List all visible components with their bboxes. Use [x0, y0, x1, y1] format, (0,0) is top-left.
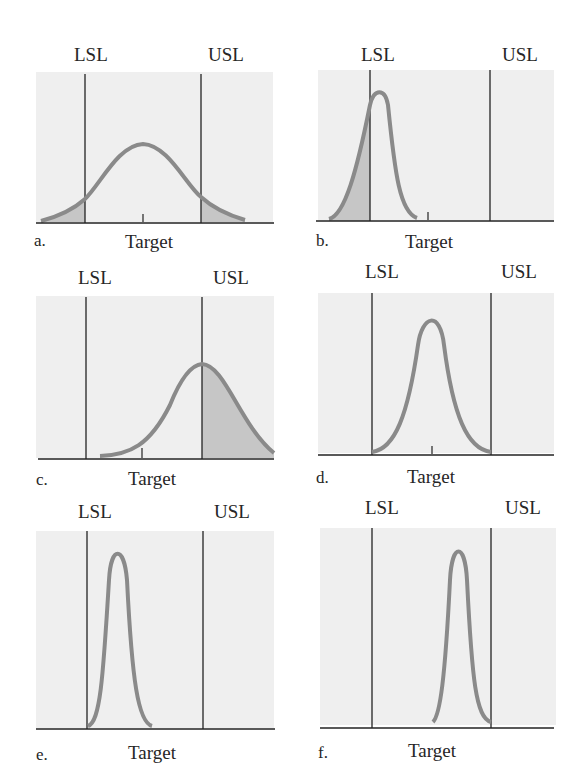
- target-label: Target: [408, 740, 456, 762]
- panel-f: LSL USL f. Target: [290, 500, 585, 784]
- panel-letter: b.: [316, 231, 329, 251]
- panel-d: LSL USL d. Target: [290, 255, 585, 500]
- panel-letter: d.: [316, 468, 329, 488]
- chart-d: [290, 255, 585, 500]
- target-label: Target: [128, 742, 176, 764]
- panel-letter: e.: [36, 745, 48, 765]
- chart-a: [0, 0, 290, 255]
- panel-letter: a.: [34, 231, 46, 251]
- target-label: Target: [125, 231, 173, 253]
- panel-letter: c.: [36, 470, 48, 490]
- panel-a: LSL USL a. Target: [0, 0, 290, 255]
- panel-b: LSL USL b. Target: [290, 0, 585, 255]
- chart-b: [290, 0, 585, 255]
- panel-e: LSL USL e. Target: [0, 500, 290, 784]
- target-label: Target: [407, 466, 455, 488]
- target-label: Target: [128, 468, 176, 490]
- chart-c: [0, 255, 290, 500]
- panel-c: LSL USL c. Target: [0, 255, 290, 500]
- panel-letter: f.: [318, 743, 328, 763]
- target-label: Target: [405, 231, 453, 253]
